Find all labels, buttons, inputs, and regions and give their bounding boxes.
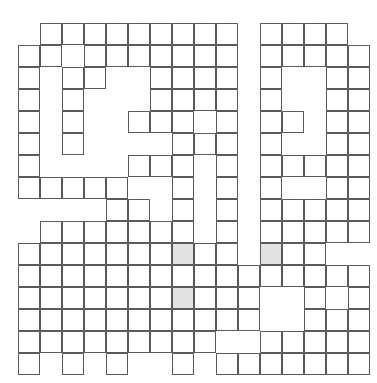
grid-cell[interactable]: [40, 287, 62, 309]
grid-cell[interactable]: [62, 111, 84, 133]
grid-cell[interactable]: [282, 243, 304, 265]
grid-cell[interactable]: [326, 89, 348, 111]
grid-cell[interactable]: [216, 111, 238, 133]
grid-cell[interactable]: [150, 155, 172, 177]
grid-cell[interactable]: [128, 265, 150, 287]
grid-cell[interactable]: [216, 221, 238, 243]
grid-cell[interactable]: [18, 265, 40, 287]
grid-cell[interactable]: [172, 199, 194, 221]
grid-cell[interactable]: [150, 23, 172, 45]
grid-cell[interactable]: [106, 45, 128, 67]
grid-cell[interactable]: [62, 287, 84, 309]
grid-cell[interactable]: [260, 89, 282, 111]
grid-cell[interactable]: [348, 221, 370, 243]
grid-cell[interactable]: [348, 353, 370, 375]
grid-cell[interactable]: [150, 45, 172, 67]
grid-cell[interactable]: [194, 89, 216, 111]
grid-cell[interactable]: [172, 133, 194, 155]
grid-cell[interactable]: [348, 309, 370, 331]
grid-cell[interactable]: [194, 265, 216, 287]
grid-cell[interactable]: [216, 243, 238, 265]
grid-cell[interactable]: [216, 309, 238, 331]
grid-cell[interactable]: [106, 309, 128, 331]
grid-cell[interactable]: [326, 45, 348, 67]
grid-cell[interactable]: [18, 243, 40, 265]
grid-cell[interactable]: [260, 221, 282, 243]
grid-cell[interactable]: [62, 67, 84, 89]
grid-cell[interactable]: [304, 199, 326, 221]
grid-cell[interactable]: [282, 353, 304, 375]
grid-cell[interactable]: [106, 331, 128, 353]
grid-cell[interactable]: [18, 309, 40, 331]
grid-cell[interactable]: [260, 177, 282, 199]
grid-cell[interactable]: [348, 133, 370, 155]
grid-cell[interactable]: [260, 331, 282, 353]
grid-cell[interactable]: [194, 45, 216, 67]
grid-cell[interactable]: [238, 353, 260, 375]
grid-cell[interactable]: [216, 265, 238, 287]
grid-cell[interactable]: [216, 287, 238, 309]
grid-cell[interactable]: [260, 111, 282, 133]
grid-cell[interactable]: [216, 23, 238, 45]
grid-cell[interactable]: [172, 67, 194, 89]
grid-cell[interactable]: [326, 331, 348, 353]
grid-cell[interactable]: [40, 221, 62, 243]
grid-cell[interactable]: [348, 111, 370, 133]
grid-cell[interactable]: [62, 177, 84, 199]
grid-cell[interactable]: [128, 111, 150, 133]
crossword-grid[interactable]: [0, 0, 377, 383]
grid-cell[interactable]: [238, 309, 260, 331]
grid-cell[interactable]: [304, 221, 326, 243]
grid-cell[interactable]: [150, 221, 172, 243]
grid-cell[interactable]: [304, 265, 326, 287]
grid-cell[interactable]: [216, 177, 238, 199]
grid-cell[interactable]: [172, 111, 194, 133]
grid-cell[interactable]: [84, 221, 106, 243]
grid-cell[interactable]: [150, 243, 172, 265]
grid-cell[interactable]: [194, 309, 216, 331]
grid-cell[interactable]: [194, 133, 216, 155]
grid-cell[interactable]: [18, 45, 40, 67]
grid-cell[interactable]: [150, 67, 172, 89]
grid-cell[interactable]: [348, 287, 370, 309]
grid-cell[interactable]: [348, 155, 370, 177]
grid-cell[interactable]: [84, 287, 106, 309]
grid-cell[interactable]: [62, 331, 84, 353]
grid-cell[interactable]: [62, 353, 84, 375]
grid-cell[interactable]: [326, 221, 348, 243]
grid-cell[interactable]: [172, 309, 194, 331]
grid-cell[interactable]: [84, 45, 106, 67]
grid-cell[interactable]: [304, 353, 326, 375]
grid-cell[interactable]: [150, 287, 172, 309]
grid-cell[interactable]: [326, 309, 348, 331]
grid-cell[interactable]: [84, 243, 106, 265]
grid-cell[interactable]: [304, 309, 326, 331]
grid-cell[interactable]: [260, 45, 282, 67]
grid-cell[interactable]: [172, 265, 194, 287]
grid-cell[interactable]: [282, 23, 304, 45]
grid-cell[interactable]: [128, 155, 150, 177]
grid-cell[interactable]: [106, 287, 128, 309]
grid-cell[interactable]: [40, 243, 62, 265]
grid-cell[interactable]: [326, 23, 348, 45]
grid-cell[interactable]: [18, 133, 40, 155]
grid-cell[interactable]: [150, 111, 172, 133]
grid-cell[interactable]: [260, 23, 282, 45]
grid-cell[interactable]: [84, 177, 106, 199]
grid-cell[interactable]: [84, 67, 106, 89]
grid-cell[interactable]: [172, 221, 194, 243]
grid-cell[interactable]: [150, 309, 172, 331]
grid-cell[interactable]: [40, 45, 62, 67]
grid-cell[interactable]: [18, 287, 40, 309]
grid-cell[interactable]: [260, 199, 282, 221]
grid-cell[interactable]: [348, 177, 370, 199]
grid-cell[interactable]: [326, 67, 348, 89]
grid-cell[interactable]: [128, 243, 150, 265]
grid-cell[interactable]: [172, 331, 194, 353]
grid-cell-shaded[interactable]: [172, 287, 194, 309]
grid-cell[interactable]: [106, 243, 128, 265]
grid-cell[interactable]: [84, 331, 106, 353]
grid-cell[interactable]: [172, 23, 194, 45]
grid-cell[interactable]: [304, 331, 326, 353]
grid-cell[interactable]: [194, 331, 216, 353]
